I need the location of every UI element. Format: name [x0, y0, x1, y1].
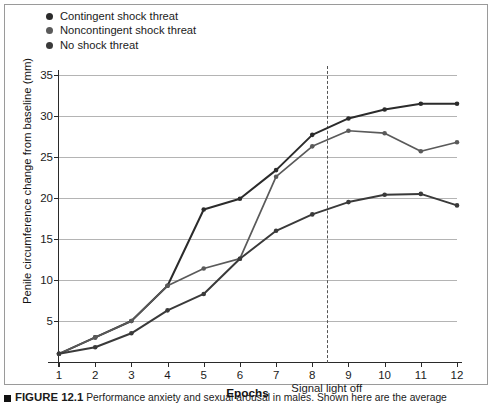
caption-bullet-icon [4, 395, 11, 402]
data-point [310, 144, 315, 149]
data-point [382, 107, 387, 112]
data-point [310, 133, 315, 138]
y-tick-mark [54, 321, 58, 322]
data-point [165, 308, 170, 313]
caption-text: Performance anxiety and sexual arousal i… [86, 392, 447, 403]
y-axis-title: Penile circumference change from baselin… [21, 36, 33, 326]
data-point [274, 174, 279, 179]
data-point [382, 131, 387, 136]
data-point [57, 352, 62, 357]
data-point [238, 256, 243, 261]
series-layer [0, 0, 495, 404]
data-point [274, 229, 279, 234]
data-point [129, 331, 134, 336]
y-tick-mark [54, 75, 58, 76]
y-tick-mark [54, 198, 58, 199]
data-point [238, 197, 243, 202]
series-line [59, 104, 457, 354]
data-point [455, 101, 460, 106]
data-point [346, 116, 351, 121]
data-point [201, 292, 206, 297]
data-point [165, 283, 170, 288]
data-point [201, 207, 206, 212]
y-tick-mark [54, 239, 58, 240]
data-point [274, 168, 279, 173]
data-point [419, 149, 424, 154]
data-point [346, 128, 351, 133]
data-point [129, 319, 134, 324]
data-point [419, 192, 424, 197]
data-point [455, 140, 460, 145]
data-point [93, 345, 98, 350]
series-1 [57, 128, 460, 356]
data-point [382, 192, 387, 197]
figure-caption: FIGURE 12.1 Performance anxiety and sexu… [4, 391, 491, 404]
y-tick-mark [54, 157, 58, 158]
caption-figure-number: FIGURE 12.1 [15, 391, 83, 403]
series-line [59, 131, 457, 354]
data-point [419, 101, 424, 106]
data-point [455, 203, 460, 208]
data-point [201, 266, 206, 271]
y-tick-mark [54, 116, 58, 117]
data-point [310, 212, 315, 217]
data-point [93, 335, 98, 340]
y-tick-mark [54, 280, 58, 281]
figure-root: Contingent shock threatNoncontingent sho… [0, 0, 495, 404]
data-point [346, 200, 351, 205]
